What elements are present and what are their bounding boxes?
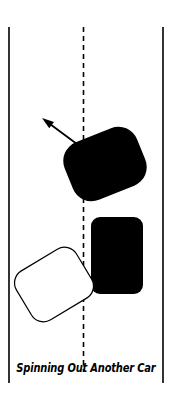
road-scene-diagram: [0, 0, 172, 401]
vehicle-subject-car: [91, 217, 143, 294]
spinning-out-another-car-figure: Spinning Out Another Car: [0, 0, 172, 401]
